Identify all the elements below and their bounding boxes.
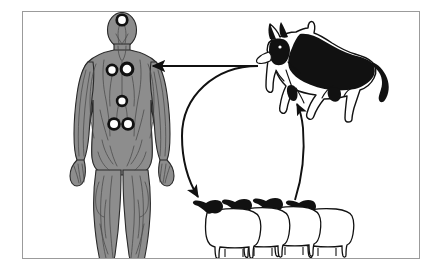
diagram-border-frame xyxy=(22,11,420,259)
diagram-canvas xyxy=(0,0,442,274)
